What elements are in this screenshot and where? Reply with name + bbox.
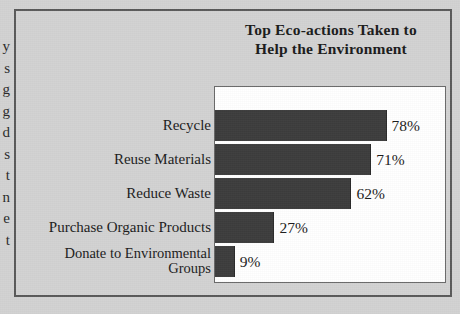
- category-axis-labels: Recycle Reuse Materials Reduce Waste Pur…: [0, 108, 213, 278]
- bar-recycle: [215, 110, 387, 141]
- bar-row: 78%: [215, 109, 445, 143]
- bar-purchase-organic-products: [215, 212, 274, 243]
- category-label-reuse-materials: Reuse Materials: [0, 142, 213, 176]
- bar-value-reuse-materials: 71%: [371, 151, 404, 169]
- chart-title: Top Eco-actions Taken to Help the Enviro…: [214, 20, 448, 58]
- margin-fragment: s: [0, 58, 11, 80]
- bar-value-donate-to-environmental-groups: 9%: [235, 253, 261, 271]
- bar-row: 9%: [215, 245, 445, 279]
- margin-fragment: g: [0, 79, 11, 101]
- bar-donate-to-environmental-groups: [215, 246, 235, 277]
- bar-reuse-materials: [215, 144, 371, 175]
- category-label-reduce-waste: Reduce Waste: [0, 176, 213, 210]
- bar-row: 62%: [215, 177, 445, 211]
- chart-title-line-1: Top Eco-actions Taken to: [214, 20, 448, 39]
- category-label-donate-to-environmental-groups: Donate to Environmental Groups: [0, 244, 213, 278]
- chart-title-line-2: Help the Environment: [214, 39, 448, 58]
- bar-value-purchase-organic-products: 27%: [274, 219, 307, 237]
- bar-series: 78% 71% 62% 27% 9%: [215, 109, 445, 279]
- bar-reduce-waste: [215, 178, 351, 209]
- category-label-purchase-organic-products: Purchase Organic Products: [0, 210, 213, 244]
- margin-fragment: y: [0, 36, 11, 58]
- figure-page: y s g g d s t n e t Top Eco-actions Take…: [0, 0, 460, 314]
- bar-value-reduce-waste: 62%: [351, 185, 384, 203]
- plot-area: 78% 71% 62% 27% 9%: [214, 86, 446, 283]
- bar-value-recycle: 78%: [387, 117, 420, 135]
- bar-row: 27%: [215, 211, 445, 245]
- category-label-recycle: Recycle: [0, 108, 213, 142]
- bar-row: 71%: [215, 143, 445, 177]
